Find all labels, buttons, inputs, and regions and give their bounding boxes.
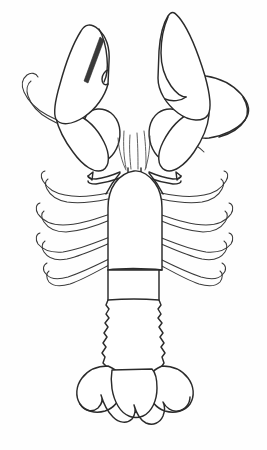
walking-leg-left-4 bbox=[43, 259, 109, 286]
walking-leg-right-4 bbox=[160, 259, 226, 286]
right-walking-legs bbox=[159, 171, 233, 286]
walking-leg-left-3 bbox=[36, 233, 110, 260]
right-cheliped-claw bbox=[158, 13, 210, 121]
walking-leg-left-2 bbox=[36, 203, 110, 232]
tail-fan bbox=[77, 366, 193, 424]
crayfish-figure bbox=[0, 0, 267, 450]
crayfish-line-drawing bbox=[0, 0, 267, 450]
walking-leg-right-1 bbox=[161, 171, 228, 203]
telson bbox=[111, 369, 157, 418]
walking-leg-left-1 bbox=[41, 171, 108, 203]
walking-leg-right-2 bbox=[159, 203, 233, 232]
carapace bbox=[108, 171, 162, 270]
antennules bbox=[118, 131, 150, 170]
left-walking-legs bbox=[36, 171, 110, 286]
abdomen bbox=[102, 270, 165, 375]
walking-leg-right-3 bbox=[159, 233, 233, 260]
